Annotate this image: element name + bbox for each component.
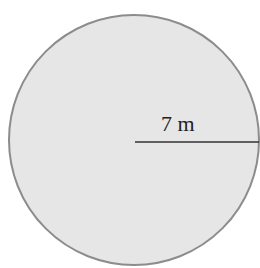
radius-label: 7 m <box>161 111 195 136</box>
circle-diagram: 7 m <box>0 0 260 268</box>
circle-shape <box>9 15 259 265</box>
